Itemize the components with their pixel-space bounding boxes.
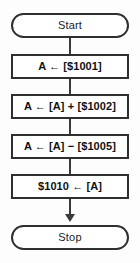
edge-subtract-to-store <box>69 159 71 175</box>
node-load: A ← [$1001] <box>11 54 129 79</box>
node-start: Start <box>11 13 129 38</box>
node-store: $1010 ← [A] <box>11 174 129 199</box>
node-add-label: A ← [A] + [$1002] <box>24 101 116 112</box>
node-add: A ← [A] + [$1002] <box>11 94 129 119</box>
node-start-label: Start <box>58 20 82 31</box>
node-subtract: A ← [A] − [$1005] <box>11 134 129 159</box>
node-stop-label: Stop <box>58 232 81 243</box>
flowchart-diagram: Start A ← [$1001] A ← [A] + [$1002] A ← … <box>0 0 140 263</box>
arrow-down-icon <box>65 214 75 222</box>
node-load-label: A ← [$1001] <box>38 61 102 72</box>
node-stop: Stop <box>11 225 129 250</box>
edge-add-to-subtract <box>69 119 71 135</box>
edge-store-to-stop <box>69 199 71 215</box>
node-store-label: $1010 ← [A] <box>38 181 102 192</box>
edge-load-to-add <box>69 79 71 95</box>
edge-start-to-load <box>69 38 71 55</box>
node-subtract-label: A ← [A] − [$1005] <box>24 141 116 152</box>
